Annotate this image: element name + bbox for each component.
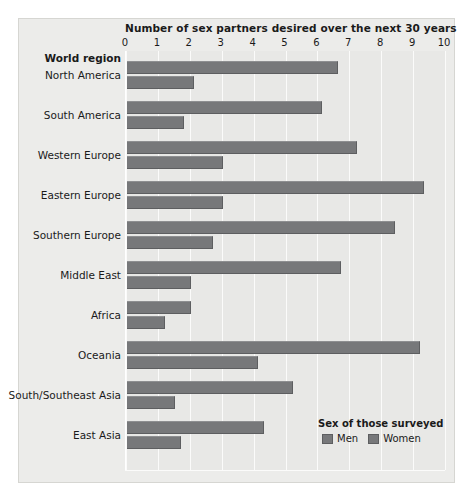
- legend-item-label: Men: [337, 433, 358, 444]
- category-label: Eastern Europe: [41, 189, 121, 201]
- plot-area: [125, 51, 445, 470]
- category-label: East Asia: [73, 429, 121, 441]
- legend-item: Men: [322, 433, 358, 444]
- plot-bottom-rule: [125, 470, 445, 471]
- bar: [127, 316, 165, 329]
- legend-swatch-icon: [322, 434, 333, 444]
- category-label: North America: [45, 69, 121, 81]
- gridline-7: [349, 51, 350, 470]
- x-tick-label: 9: [409, 37, 415, 48]
- x-tick-label: 4: [249, 37, 255, 48]
- x-tick-label: 10: [438, 37, 451, 48]
- bar: [127, 341, 420, 354]
- bar: [127, 181, 424, 194]
- bar: [127, 301, 191, 314]
- category-label: Middle East: [60, 269, 121, 281]
- category-axis: World region North AmericaSouth AmericaW…: [18, 0, 121, 498]
- category-axis-header: World region: [45, 52, 121, 64]
- legend-item-label: Women: [383, 433, 421, 444]
- legend-items: MenWomen: [318, 433, 448, 444]
- bar: [127, 221, 395, 234]
- x-tick-label: 0: [122, 37, 128, 48]
- legend-title: Sex of those surveyed: [318, 418, 448, 429]
- bar: [127, 76, 194, 89]
- bar: [127, 196, 223, 209]
- legend-swatch-icon: [368, 434, 379, 444]
- bar: [127, 236, 213, 249]
- bar: [127, 276, 191, 289]
- x-tick-label: 1: [154, 37, 160, 48]
- bar: [127, 381, 293, 394]
- gridline-8: [381, 51, 382, 470]
- bar: [127, 141, 357, 154]
- gridline-10: [445, 51, 446, 470]
- x-tick-label: 2: [186, 37, 192, 48]
- x-tick-label: 6: [313, 37, 319, 48]
- category-label: Western Europe: [38, 149, 121, 161]
- chart-root: Number of sex partners desired over the …: [0, 0, 474, 498]
- x-tick-label: 8: [377, 37, 383, 48]
- x-tick-label: 3: [218, 37, 224, 48]
- category-label: Oceania: [78, 349, 121, 361]
- chart-title: Number of sex partners desired over the …: [125, 22, 445, 34]
- x-tick-label: 5: [281, 37, 287, 48]
- category-label: South/Southeast Asia: [9, 389, 121, 401]
- bar: [127, 116, 184, 129]
- bar: [127, 421, 264, 434]
- legend-item: Women: [368, 433, 421, 444]
- bar: [127, 101, 322, 114]
- category-label: Southern Europe: [33, 229, 121, 241]
- gridline-9: [413, 51, 414, 470]
- bar: [127, 396, 175, 409]
- bar: [127, 156, 223, 169]
- bar: [127, 356, 258, 369]
- bar: [127, 61, 338, 74]
- legend: Sex of those surveyed MenWomen: [318, 418, 448, 444]
- category-label: Africa: [91, 309, 121, 321]
- x-tick-label: 7: [345, 37, 351, 48]
- bar: [127, 436, 181, 449]
- category-label: South America: [44, 109, 121, 121]
- bar: [127, 261, 341, 274]
